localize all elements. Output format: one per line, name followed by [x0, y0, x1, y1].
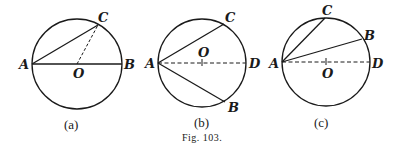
point-label-b-D: D [248, 56, 261, 71]
figure-caption: Fig. 103. [182, 132, 222, 143]
figure-c: A D C B O (c) [267, 3, 384, 130]
point-label-c-D: D [371, 56, 384, 71]
figure-label-c: (c) [314, 115, 328, 130]
chord-ac [158, 24, 224, 63]
point-label-b-B: B [227, 100, 239, 115]
figure-103-diagram: A B C O (a) A D C B O (b) A D C B O (c) … [0, 0, 396, 152]
figure-label-b: (b) [194, 115, 209, 130]
point-label-a-O: O [73, 66, 85, 81]
point-label-c-O: O [322, 66, 334, 81]
figure-a: A B C O (a) [17, 10, 135, 132]
point-label-a-C: C [98, 10, 109, 25]
point-label-b-O: O [198, 45, 210, 60]
chord-ab [158, 63, 225, 102]
point-label-c-A: A [267, 56, 279, 71]
chord-ac [32, 25, 98, 64]
figure-b: A D C B O (b) [143, 10, 261, 130]
figure-label-a: (a) [64, 117, 78, 132]
point-label-b-A: A [143, 56, 155, 71]
point-label-a-B: B [123, 57, 135, 72]
point-label-a-A: A [17, 57, 29, 72]
point-label-b-C: C [225, 10, 236, 25]
point-label-c-B: B [363, 28, 375, 43]
point-label-c-C: C [322, 3, 333, 18]
